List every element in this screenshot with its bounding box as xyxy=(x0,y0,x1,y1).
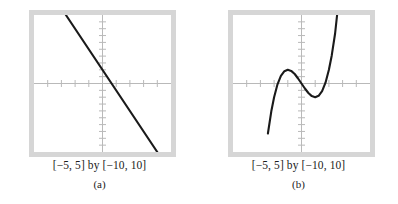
calculator-screen-b xyxy=(228,10,375,157)
plot-svg-a xyxy=(34,15,171,152)
panel-b: [−5, 5] by [−10, 10] (b) xyxy=(199,0,398,204)
calculator-screen-a xyxy=(29,10,176,157)
range-caption-a: [−5, 5] by [−10, 10] xyxy=(0,159,199,171)
plot-area-b xyxy=(233,15,370,152)
plot-area-a xyxy=(34,15,171,152)
cubic-curve-b xyxy=(268,15,337,134)
range-caption-b: [−5, 5] by [−10, 10] xyxy=(199,159,398,171)
panel-a: [−5, 5] by [−10, 10] (a) xyxy=(0,0,199,204)
part-label-b: (b) xyxy=(199,178,398,190)
figure-two-graphing-windows: [−5, 5] by [−10, 10] (a) xyxy=(0,0,398,204)
part-label-a: (a) xyxy=(0,178,199,190)
plot-svg-b xyxy=(233,15,370,152)
